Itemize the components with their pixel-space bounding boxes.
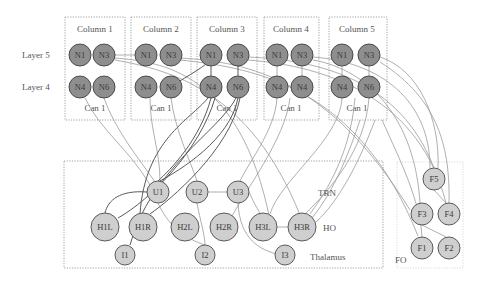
node-c2-n4[interactable]: N4 xyxy=(135,76,157,98)
svg-text:F5: F5 xyxy=(430,174,439,184)
node-h2r[interactable]: H2R xyxy=(210,213,238,241)
column-nodes: N1 N3 N4 N6 N1 N3 N4 N6 N1 N3 N4 N6 N1 N… xyxy=(69,44,380,98)
ho-label: HO xyxy=(323,223,336,233)
node-c1-n3[interactable]: N3 xyxy=(93,44,115,66)
node-u2[interactable]: U2 xyxy=(186,181,208,203)
row-label-layer4: Layer 4 xyxy=(22,82,50,92)
svg-text:I2: I2 xyxy=(201,250,208,260)
node-c3-n3[interactable]: N3 xyxy=(227,44,249,66)
svg-text:N4: N4 xyxy=(75,82,86,92)
svg-text:N3: N3 xyxy=(364,50,374,60)
svg-text:N6: N6 xyxy=(233,82,243,92)
svg-text:N3: N3 xyxy=(99,50,109,60)
node-c1-n6[interactable]: N6 xyxy=(93,76,115,98)
column-footer: Can 1 xyxy=(280,103,301,113)
svg-text:N6: N6 xyxy=(99,82,109,92)
svg-text:U3: U3 xyxy=(233,187,243,197)
node-c5-n4[interactable]: N4 xyxy=(331,76,353,98)
node-f2[interactable]: F2 xyxy=(438,237,460,259)
node-c4-n4b[interactable]: N4 xyxy=(291,76,313,98)
trn-label: TRN xyxy=(318,188,337,198)
node-i3[interactable]: I3 xyxy=(275,245,295,265)
column-1: Column 1 Can 1 xyxy=(65,17,125,120)
node-h1l[interactable]: H1L xyxy=(91,213,119,241)
svg-text:N1: N1 xyxy=(272,50,282,60)
node-c1-n1[interactable]: N1 xyxy=(69,44,91,66)
node-u1[interactable]: U1 xyxy=(147,181,169,203)
column-footer: Can 1 xyxy=(84,103,105,113)
node-c4-n1[interactable]: N1 xyxy=(266,44,288,66)
svg-text:N3: N3 xyxy=(297,50,307,60)
node-c5-n3[interactable]: N3 xyxy=(358,44,380,66)
node-c2-n3[interactable]: N3 xyxy=(160,44,182,66)
column-title: Column 5 xyxy=(339,24,375,34)
node-u3[interactable]: U3 xyxy=(227,181,249,203)
node-c1-n4[interactable]: N4 xyxy=(69,76,91,98)
node-c3-n1[interactable]: N1 xyxy=(200,44,222,66)
node-c3-n6[interactable]: N6 xyxy=(227,76,249,98)
column-5: Column 5 Can 1 xyxy=(329,17,387,120)
svg-text:H2L: H2L xyxy=(177,222,193,232)
node-c5-n1[interactable]: N1 xyxy=(331,44,353,66)
node-h3l[interactable]: H3L xyxy=(249,213,277,241)
column-footer: Can 1 xyxy=(346,103,367,113)
thalamus-label: Thalamus xyxy=(310,252,346,262)
node-c2-n6[interactable]: N6 xyxy=(160,76,182,98)
svg-text:N3: N3 xyxy=(233,50,243,60)
node-i2[interactable]: I2 xyxy=(195,245,215,265)
node-f5[interactable]: F5 xyxy=(423,168,445,190)
svg-text:I1: I1 xyxy=(121,250,128,260)
svg-text:N6: N6 xyxy=(364,82,374,92)
svg-text:H1R: H1R xyxy=(135,222,151,232)
column-4: Column 4 Can 1 xyxy=(264,17,319,120)
svg-text:N1: N1 xyxy=(206,50,216,60)
svg-text:U2: U2 xyxy=(192,187,202,197)
svg-text:N1: N1 xyxy=(337,50,347,60)
node-f3[interactable]: F3 xyxy=(411,203,433,225)
svg-text:N3: N3 xyxy=(166,50,176,60)
node-c4-n4[interactable]: N4 xyxy=(266,76,288,98)
svg-text:I3: I3 xyxy=(281,250,288,260)
node-f4[interactable]: F4 xyxy=(438,203,460,225)
column-title: Column 1 xyxy=(77,24,113,34)
svg-text:F2: F2 xyxy=(445,243,454,253)
node-c2-n1[interactable]: N1 xyxy=(135,44,157,66)
network-diagram: Layer 5 Layer 4 Column 1 Can 1 Column 2 … xyxy=(0,0,486,285)
node-i1[interactable]: I1 xyxy=(115,245,135,265)
column-title: Column 3 xyxy=(209,24,245,34)
svg-text:N4: N4 xyxy=(272,82,283,92)
svg-text:N4: N4 xyxy=(337,82,348,92)
row-label-layer5: Layer 5 xyxy=(22,50,50,60)
svg-text:F3: F3 xyxy=(418,209,427,219)
fo-nodes: F5 F3 F4 F1 F2 xyxy=(411,168,460,259)
svg-text:N1: N1 xyxy=(75,50,85,60)
svg-text:H3L: H3L xyxy=(255,222,271,232)
node-f1[interactable]: F1 xyxy=(411,237,433,259)
column-footer: Can 1 xyxy=(150,103,171,113)
node-c4-n3[interactable]: N3 xyxy=(291,44,313,66)
svg-text:U1: U1 xyxy=(153,187,163,197)
svg-text:F1: F1 xyxy=(418,243,427,253)
node-h1r[interactable]: H1R xyxy=(129,213,157,241)
node-c5-n6[interactable]: N6 xyxy=(358,76,380,98)
svg-text:N6: N6 xyxy=(166,82,176,92)
fo-label: FO xyxy=(395,255,407,265)
svg-text:F4: F4 xyxy=(445,209,455,219)
svg-text:H1L: H1L xyxy=(97,222,113,232)
svg-text:H3R: H3R xyxy=(294,222,310,232)
svg-text:N4: N4 xyxy=(297,82,308,92)
node-c3-n4[interactable]: N4 xyxy=(200,76,222,98)
svg-text:N4: N4 xyxy=(141,82,152,92)
column-title: Column 4 xyxy=(273,24,309,34)
column-2: Column 2 Can 1 xyxy=(131,17,191,120)
svg-text:N1: N1 xyxy=(141,50,151,60)
node-h2l[interactable]: H2L xyxy=(171,213,199,241)
svg-text:N4: N4 xyxy=(206,82,217,92)
node-h3r[interactable]: H3R xyxy=(288,213,316,241)
svg-text:H2R: H2R xyxy=(216,222,232,232)
column-title: Column 2 xyxy=(143,24,179,34)
